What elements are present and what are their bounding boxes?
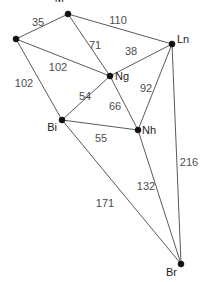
- graph-node-nh[interactable]: [135, 127, 141, 133]
- edge-weight-label: 216: [180, 157, 198, 168]
- graph-node-br[interactable]: [178, 261, 184, 267]
- edge-weight-label: 55: [95, 133, 107, 144]
- graph-edge-ln-br: [172, 44, 181, 264]
- graph-node-ng[interactable]: [107, 73, 113, 79]
- edge-weight-label: 38: [125, 46, 137, 57]
- edge-weight-label: 171: [96, 198, 114, 209]
- edge-weight-label: 132: [137, 181, 155, 192]
- node-label-br: Br: [166, 267, 177, 278]
- node-label-ng: Ng: [115, 71, 129, 82]
- edge-weight-label: 92: [140, 83, 152, 94]
- node-label-bi: Bi: [47, 122, 57, 133]
- graph-edge-bi-br: [62, 120, 181, 264]
- node-label-nh: Nh: [142, 125, 156, 136]
- edge-weight-label: 66: [109, 101, 121, 112]
- graph-node-m[interactable]: [65, 11, 71, 17]
- edge-weight-label: 110: [109, 15, 127, 26]
- graph-diagram: 35110713810210254669255216132171MLpLnNgB…: [0, 0, 220, 282]
- node-label-ln: Ln: [177, 34, 189, 45]
- edge-weight-label: 102: [49, 62, 67, 73]
- edge-weight-label: 102: [15, 78, 33, 89]
- edge-weight-label: 71: [89, 40, 101, 51]
- edge-weight-label: 54: [79, 91, 91, 102]
- graph-node-bi[interactable]: [59, 117, 65, 123]
- graph-node-lp[interactable]: [13, 36, 19, 42]
- node-label-m: M: [55, 0, 64, 4]
- graph-node-ln[interactable]: [169, 41, 175, 47]
- graph-edge-bi-nh: [62, 120, 138, 130]
- graph-edge-nh-br: [138, 130, 181, 264]
- edge-weight-label: 35: [32, 17, 44, 28]
